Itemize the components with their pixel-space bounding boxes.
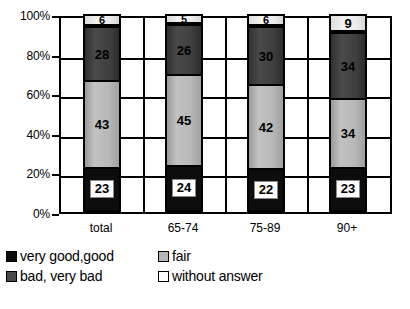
- value-label-90-plus-fair: 34: [341, 127, 355, 140]
- x-axis-label-75-89: 75-89: [230, 222, 300, 235]
- legend-item-without-answer[interactable]: without answer: [158, 269, 263, 284]
- x-axis-label-90-plus: 90+: [312, 222, 382, 235]
- segment-75-89-bad[interactable]: 30: [247, 26, 285, 85]
- value-label-total-very-good: 23: [90, 180, 114, 198]
- y-tick-60: [52, 95, 59, 97]
- value-label-90-plus-very-good: 23: [336, 180, 360, 198]
- segment-total-fair[interactable]: 43: [83, 81, 121, 166]
- y-axis-label-60: 60%: [6, 89, 50, 101]
- segment-90-plus-without-answer[interactable]: 9: [329, 14, 367, 32]
- segment-90-plus-bad[interactable]: 34: [329, 32, 367, 99]
- segment-total-very-good[interactable]: 23: [83, 167, 121, 213]
- legend-label-bad: bad, very bad: [20, 269, 102, 284]
- y-tick-0: [52, 214, 59, 216]
- category-separator-3: [307, 18, 309, 212]
- legend-item-bad[interactable]: bad, very bad: [6, 269, 158, 284]
- value-label-75-89-very-good: 22: [254, 181, 278, 199]
- segment-65-74-fair[interactable]: 45: [165, 75, 203, 164]
- legend-label-without-answer: without answer: [172, 269, 263, 284]
- y-tick-100: [52, 16, 59, 18]
- segment-65-74-bad[interactable]: 26: [165, 24, 203, 76]
- segment-65-74-very-good[interactable]: 24: [165, 165, 203, 213]
- legend-row-1: very good,good fair: [6, 249, 306, 269]
- bar-65-74[interactable]: 5 26 45 24: [165, 14, 203, 212]
- without-answer-swatch-icon: [158, 271, 169, 282]
- segment-90-plus-very-good[interactable]: 23: [329, 167, 367, 213]
- bad-swatch-icon: [6, 271, 17, 282]
- fair-swatch-icon: [158, 251, 169, 262]
- segment-90-plus-fair[interactable]: 34: [329, 99, 367, 166]
- value-label-65-74-fair: 45: [177, 114, 191, 127]
- value-label-75-89-fair: 42: [259, 121, 273, 134]
- value-label-90-plus-bad: 34: [341, 60, 355, 73]
- value-label-75-89-without-answer: 6: [263, 15, 269, 25]
- value-label-75-89-bad: 30: [259, 50, 273, 63]
- y-axis-label-20: 20%: [6, 168, 50, 180]
- x-axis-label-65-74: 65-74: [148, 222, 218, 235]
- plot-area: 6 28 43 23 5 26 45 24: [59, 16, 392, 214]
- legend-label-fair: fair: [172, 249, 191, 264]
- legend-item-very-good[interactable]: very good,good: [6, 249, 158, 264]
- y-tick-80: [52, 56, 59, 58]
- value-label-65-74-without-answer: 5: [181, 14, 187, 24]
- y-axis-label-100: 100%: [6, 10, 50, 22]
- value-label-total-bad: 28: [95, 48, 109, 61]
- legend: very good,good fair bad, very bad withou…: [6, 249, 306, 289]
- legend-item-fair[interactable]: fair: [158, 249, 191, 264]
- segment-75-89-very-good[interactable]: 22: [247, 168, 285, 212]
- legend-label-very-good: very good,good: [20, 249, 114, 264]
- segment-75-89-fair[interactable]: 42: [247, 85, 285, 168]
- value-label-total-fair: 43: [95, 118, 109, 131]
- value-label-90-plus-without-answer: 9: [344, 17, 351, 30]
- bar-total[interactable]: 6 28 43 23: [83, 14, 121, 212]
- y-axis-label-40: 40%: [6, 129, 50, 141]
- y-axis-label-80: 80%: [6, 50, 50, 62]
- y-tick-20: [52, 174, 59, 176]
- segment-65-74-without-answer[interactable]: 5: [165, 14, 203, 24]
- value-label-65-74-very-good: 24: [172, 179, 196, 197]
- very-good-swatch-icon: [6, 251, 17, 262]
- legend-row-2: bad, very bad without answer: [6, 269, 306, 289]
- bar-90-plus[interactable]: 9 34 34 23: [329, 14, 367, 212]
- stacked-bar-chart: 100% 80% 60% 40% 20% 0% 6 28 43 23: [0, 0, 410, 309]
- bar-75-89[interactable]: 6 30 42 22: [247, 14, 285, 212]
- segment-total-bad[interactable]: 28: [83, 26, 121, 81]
- x-axis-label-total: total: [66, 222, 136, 235]
- category-separator-1: [143, 18, 145, 212]
- value-label-total-without-answer: 6: [99, 15, 105, 25]
- segment-total-without-answer[interactable]: 6: [83, 14, 121, 26]
- category-separator-2: [225, 18, 227, 212]
- y-tick-40: [52, 135, 59, 137]
- segment-75-89-without-answer[interactable]: 6: [247, 14, 285, 26]
- value-label-65-74-bad: 26: [177, 44, 191, 57]
- y-axis-label-0: 0%: [6, 208, 50, 220]
